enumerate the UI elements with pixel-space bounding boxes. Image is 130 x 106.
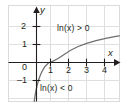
- x-tick-label-2: 2: [66, 66, 71, 75]
- logarithm-graph-figure: 2 1 0 –1 1 2 3 4 y x ln(x) > 0 ln(x) < 0: [0, 0, 130, 106]
- y-axis-label: y: [40, 5, 45, 15]
- x-axis-label: x: [108, 48, 113, 58]
- annotation-ln-positive: ln(x) > 0: [57, 24, 90, 33]
- y-tick-label-0: 0: [22, 63, 27, 72]
- x-tick-label-3: 3: [84, 66, 89, 75]
- y-tick-label-2: 2: [21, 22, 26, 31]
- y-tick-label-minus-1: –1: [17, 76, 27, 85]
- annotation-ln-negative: ln(x) < 0: [40, 84, 73, 93]
- x-tick-label-1: 1: [48, 66, 53, 75]
- x-tick-label-4: 4: [102, 66, 107, 75]
- y-tick-label-1: 1: [22, 40, 27, 49]
